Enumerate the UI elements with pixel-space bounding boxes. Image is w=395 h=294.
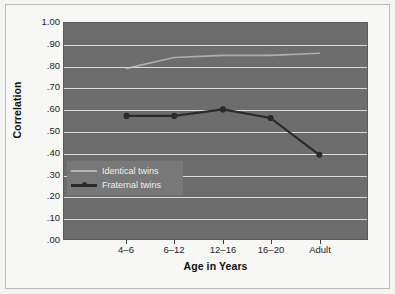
data-point bbox=[171, 113, 177, 119]
x-axis-title: Age in Years bbox=[63, 260, 368, 272]
chart-legend: Identical twins Fraternal twins bbox=[67, 161, 183, 195]
series-layer bbox=[64, 23, 367, 239]
x-axis-tick-label: Adult bbox=[290, 244, 350, 255]
legend-label-identical-twins: Identical twins bbox=[102, 165, 159, 177]
legend-label-fraternal-twins: Fraternal twins bbox=[102, 179, 161, 191]
y-axis-tick-label: .40 bbox=[20, 148, 60, 158]
y-axis-tick-label: 1.00 bbox=[20, 17, 60, 27]
legend-line-identical bbox=[71, 170, 97, 172]
y-axis-tick-label: .60 bbox=[20, 104, 60, 114]
series-line-identical-twins bbox=[127, 53, 320, 68]
y-axis-tick-label: .80 bbox=[20, 61, 60, 71]
y-axis-tick-label: .50 bbox=[20, 126, 60, 136]
plot-area: Identical twins Fraternal twins bbox=[63, 22, 368, 240]
legend-item-identical-twins: Identical twins bbox=[71, 164, 179, 178]
legend-swatch-fraternal-twins bbox=[71, 180, 97, 190]
x-axis-tick-labels: 4–66–1212–1616–20Adult bbox=[0, 244, 395, 258]
y-axis-tick-label: .70 bbox=[20, 82, 60, 92]
series-line-fraternal-twins bbox=[127, 109, 320, 154]
y-axis-tick-label: .90 bbox=[20, 39, 60, 49]
data-point bbox=[124, 113, 130, 119]
legend-swatch-identical-twins bbox=[71, 166, 97, 176]
chart-figure: 1.00.90.80.70.60.50.40.30.20.10.00 Corre… bbox=[0, 0, 395, 294]
y-axis-tick-label: .10 bbox=[20, 213, 60, 223]
legend-item-fraternal-twins: Fraternal twins bbox=[71, 178, 179, 192]
legend-marker-fraternal bbox=[82, 182, 87, 187]
y-axis-title: Correlation bbox=[11, 65, 23, 155]
y-axis-tick-label: .20 bbox=[20, 191, 60, 201]
data-point bbox=[268, 115, 274, 121]
data-point bbox=[316, 152, 322, 158]
data-point bbox=[220, 106, 226, 112]
y-axis-tick-label: .30 bbox=[20, 170, 60, 180]
